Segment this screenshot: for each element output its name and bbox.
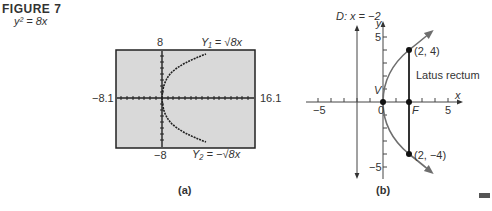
focus-label: F bbox=[412, 104, 419, 116]
vertex-label: V bbox=[374, 84, 381, 96]
upper-point-label: (2, 4) bbox=[414, 45, 440, 57]
end-of-example-marker bbox=[479, 193, 490, 198]
latus-rectum-label: Latus rectum bbox=[416, 69, 480, 81]
x-tick-5: 5 bbox=[445, 104, 451, 116]
directrix-label: D: x = −2 bbox=[336, 10, 381, 22]
lower-point-label: (2, −4) bbox=[414, 149, 446, 161]
x-tick-neg5: −5 bbox=[313, 104, 326, 116]
panel-b-caption: (b) bbox=[376, 184, 390, 196]
y-tick-5: 5 bbox=[375, 31, 381, 43]
x-axis-label: x bbox=[455, 89, 461, 101]
upper-latus-point bbox=[406, 47, 412, 53]
y-axis-label: y bbox=[376, 17, 382, 29]
lower-latus-point bbox=[406, 151, 412, 157]
y-tick-neg5: −5 bbox=[369, 161, 382, 173]
x-tick-0: 0 bbox=[378, 104, 384, 116]
